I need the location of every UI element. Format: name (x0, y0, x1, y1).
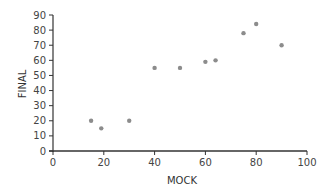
y-axis-title: FINAL (17, 69, 28, 98)
x-tick-label: 100 (297, 157, 316, 168)
y-tick-label: 30 (33, 100, 46, 111)
x-tick-label: 60 (199, 157, 212, 168)
data-point (127, 119, 131, 123)
y-tick-label: 20 (33, 115, 46, 126)
y-axis: 0102030405060708090 (33, 10, 53, 157)
x-tick-label: 0 (50, 157, 56, 168)
data-point (178, 66, 182, 70)
scatter-chart: 0102030405060708090 020406080100 MOCK FI… (0, 0, 327, 191)
data-point (254, 22, 258, 26)
y-tick-label: 40 (33, 85, 46, 96)
x-axis: 020406080100 (49, 151, 317, 168)
data-point (152, 66, 156, 70)
x-tick-label: 40 (148, 157, 161, 168)
y-tick-label: 60 (33, 55, 46, 66)
y-tick-label: 80 (33, 25, 46, 36)
data-point (241, 31, 245, 35)
data-point (89, 119, 93, 123)
data-point (279, 43, 283, 47)
y-tick-label: 50 (33, 70, 46, 81)
y-tick-label: 10 (33, 130, 46, 141)
x-tick-label: 20 (97, 157, 110, 168)
y-tick-label: 90 (33, 10, 46, 21)
data-point (99, 126, 103, 130)
y-tick-label: 0 (40, 146, 46, 157)
x-axis-title: MOCK (167, 175, 197, 186)
data-points (89, 22, 284, 131)
x-tick-label: 80 (250, 157, 263, 168)
y-tick-label: 70 (33, 40, 46, 51)
data-point (213, 58, 217, 62)
data-point (203, 60, 207, 64)
